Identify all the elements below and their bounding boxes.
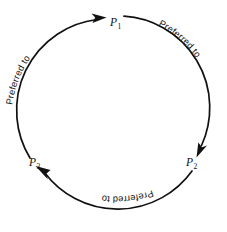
- node-label-p2: P2: [185, 156, 198, 171]
- arc-bottom: [45, 171, 193, 209]
- cycle-diagram-canvas: P1 P2 P3 Preferred to Preferred to Prefe…: [0, 0, 227, 232]
- node-label-p1: P1: [109, 16, 122, 31]
- svg-text:P2: P2: [185, 156, 198, 171]
- node-p3-subscript: 3: [37, 162, 41, 171]
- node-p3-base: P: [28, 156, 36, 168]
- node-p1-subscript: 1: [118, 22, 122, 31]
- svg-text:P3: P3: [28, 156, 41, 171]
- node-p2-base: P: [185, 156, 193, 168]
- edge-p3-to-p1: [17, 14, 107, 158]
- edge-label-right: Preferred to: [157, 18, 203, 59]
- edge-p1-to-p2: [124, 16, 210, 157]
- svg-text:P1: P1: [109, 16, 122, 31]
- preference-cycle-figure: P1 P2 P3 Preferred to Preferred to Prefe…: [0, 0, 227, 232]
- edge-label-right-text: Preferred to: [157, 18, 203, 59]
- node-label-p3: P3: [28, 156, 41, 171]
- arrowhead-into-p1: [92, 14, 107, 23]
- edge-label-bottom: Preferred to: [101, 188, 155, 204]
- node-p1-base: P: [109, 16, 117, 28]
- node-p2-subscript: 2: [194, 162, 198, 171]
- arc-left: [17, 20, 97, 159]
- edge-label-bottom-text: Preferred to: [101, 188, 155, 204]
- arc-right: [124, 16, 210, 145]
